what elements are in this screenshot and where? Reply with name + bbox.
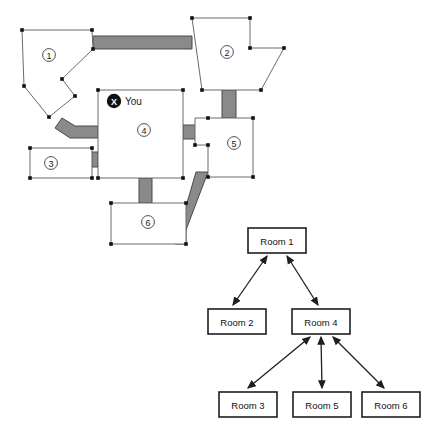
edge-4-6 [333, 337, 384, 388]
svg-text:5: 5 [231, 139, 236, 149]
room-vertex-marker [184, 201, 188, 205]
room-vertex-marker [90, 146, 94, 150]
node-room-5-label: Room 5 [305, 400, 338, 411]
corridor-1-4 [55, 118, 98, 138]
room-vertex-marker [47, 115, 51, 119]
svg-text:X: X [111, 97, 117, 107]
room-5-shape[interactable] [195, 118, 253, 177]
node-room-5[interactable]: Room 5 [293, 392, 351, 417]
room-vertex-marker [248, 46, 252, 50]
room-vertex-marker [91, 47, 95, 51]
corridor-3-4 [92, 152, 98, 167]
node-room-2[interactable]: Room 2 [208, 309, 266, 334]
room-vertex-marker [73, 94, 77, 98]
player-position-label: You [125, 96, 142, 107]
node-room-3-label: Room 3 [231, 400, 264, 411]
corridor-4-6 [139, 178, 152, 203]
room-2-shape[interactable] [192, 18, 284, 90]
room-vertex-marker [251, 116, 255, 120]
screenshot-root: 123456XYou Room 1Room 2Room 4Room 3Room … [0, 0, 425, 435]
node-room-3[interactable]: Room 3 [219, 392, 277, 417]
room-vertex-marker [90, 176, 94, 180]
node-room-4[interactable]: Room 4 [292, 309, 350, 334]
corridor-2-5 [222, 90, 236, 118]
svg-text:2: 2 [224, 48, 229, 58]
floor-plan-map: 123456XYou [20, 16, 286, 246]
room-vertex-marker [251, 175, 255, 179]
room-vertex-marker [206, 175, 210, 179]
room-vertex-marker [206, 143, 210, 147]
svg-text:6: 6 [145, 218, 150, 228]
edge-4-3 [248, 337, 310, 388]
node-room-4-label: Room 4 [304, 317, 337, 328]
svg-text:1: 1 [46, 51, 51, 61]
room-vertex-marker [248, 16, 252, 20]
node-room-1[interactable]: Room 1 [248, 228, 306, 253]
room-vertex-marker [193, 143, 197, 147]
room-vertex-marker [259, 88, 263, 92]
connectivity-graph: Room 1Room 2Room 4Room 3Room 5Room 6 [208, 228, 420, 417]
node-room-1-label: Room 1 [260, 236, 293, 247]
room-vertex-marker [20, 28, 24, 32]
room-vertex-marker [200, 88, 204, 92]
edge-1-2 [233, 256, 267, 305]
room-vertex-marker [282, 46, 286, 50]
room-vertex-marker [96, 88, 100, 92]
room-vertex-marker [90, 28, 94, 32]
room-vertex-marker [22, 84, 26, 88]
room-vertex-marker [190, 16, 194, 20]
room-vertex-marker [28, 146, 32, 150]
map-and-graph-canvas: 123456XYou Room 1Room 2Room 4Room 3Room … [0, 0, 425, 435]
node-room-2-label: Room 2 [220, 317, 253, 328]
svg-text:4: 4 [141, 126, 146, 136]
corridor-1-2 [93, 36, 192, 49]
room-3-shape[interactable] [30, 148, 92, 178]
room-vertex-marker [109, 242, 113, 246]
node-room-6-label: Room 6 [374, 400, 407, 411]
room-vertex-marker [96, 176, 100, 180]
svg-text:3: 3 [48, 159, 53, 169]
room-vertex-marker [60, 77, 64, 81]
edge-4-5 [321, 337, 322, 388]
room-vertex-marker [206, 116, 210, 120]
player-position-marker: XYou [107, 94, 142, 108]
node-room-6[interactable]: Room 6 [362, 392, 420, 417]
room-vertex-marker [184, 242, 188, 246]
room-vertex-marker [181, 88, 185, 92]
room-vertex-marker [109, 201, 113, 205]
room-vertex-marker [181, 176, 185, 180]
room-1-shape[interactable] [22, 30, 93, 117]
edge-1-4 [287, 256, 318, 305]
room-vertex-marker [28, 176, 32, 180]
